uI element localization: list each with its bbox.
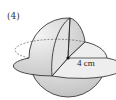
sphere-diagram: 4 cm <box>0 0 116 100</box>
radius-label: 4 cm <box>77 58 95 68</box>
center-point <box>66 56 69 59</box>
